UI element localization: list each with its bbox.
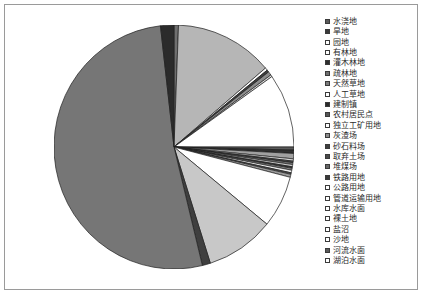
legend-swatch-icon (325, 154, 330, 159)
plot-area: 水浇地旱地园地有林地灌木林地疏林地天然草地人工草地建制镇农村居民点独立工矿用地灰… (5, 5, 419, 291)
legend-item: 水库水面 (325, 203, 417, 213)
chart-frame: 水浇地旱地园地有林地灌木林地疏林地天然草地人工草地建制镇农村居民点独立工矿用地灰… (4, 4, 418, 290)
chart-legend: 水浇地旱地园地有林地灌木林地疏林地天然草地人工草地建制镇农村居民点独立工矿用地灰… (325, 16, 417, 266)
legend-swatch-icon (325, 164, 330, 169)
legend-label: 水浇地 (333, 17, 357, 26)
legend-label: 天然草地 (333, 79, 365, 88)
legend-swatch-icon (325, 19, 330, 24)
legend-item: 沙地 (325, 235, 417, 245)
legend-item: 湖泊水面 (325, 255, 417, 265)
legend-swatch-icon (325, 196, 330, 201)
legend-item: 取弃土场 (325, 151, 417, 161)
legend-swatch-icon (325, 102, 330, 107)
legend-label: 取弃土场 (333, 152, 365, 161)
legend-label: 人工草地 (333, 90, 365, 99)
legend-label: 河流水面 (333, 246, 365, 255)
legend-item: 砂石料场 (325, 141, 417, 151)
legend-item: 公路用地 (325, 183, 417, 193)
legend-item: 盐沼 (325, 224, 417, 234)
legend-swatch-icon (325, 258, 330, 263)
legend-swatch-icon (325, 60, 330, 65)
legend-label: 公路用地 (333, 183, 365, 192)
legend-item: 疏林地 (325, 68, 417, 78)
legend-swatch-icon (325, 144, 330, 149)
legend-label: 裸土地 (333, 214, 357, 223)
legend-label: 有林地 (333, 48, 357, 57)
pie-svg (54, 25, 294, 269)
legend-item: 有林地 (325, 47, 417, 57)
legend-item: 旱地 (325, 26, 417, 36)
legend-swatch-icon (325, 185, 330, 190)
legend-item: 建制镇 (325, 99, 417, 109)
legend-label: 铁路用地 (333, 173, 365, 182)
legend-label: 建制镇 (333, 100, 357, 109)
legend-label: 独立工矿用地 (333, 121, 381, 130)
legend-swatch-icon (325, 216, 330, 221)
legend-item: 堆煤场 (325, 162, 417, 172)
legend-item: 灰渣场 (325, 130, 417, 140)
legend-label: 湖泊水面 (333, 256, 365, 265)
legend-item: 独立工矿用地 (325, 120, 417, 130)
legend-item: 天然草地 (325, 78, 417, 88)
legend-swatch-icon (325, 71, 330, 76)
legend-label: 沙地 (333, 235, 349, 244)
pie-slice-group (54, 25, 294, 269)
legend-item: 园地 (325, 37, 417, 47)
legend-swatch-icon (325, 123, 330, 128)
legend-item: 河流水面 (325, 245, 417, 255)
legend-label: 盐沼 (333, 225, 349, 234)
legend-swatch-icon (325, 112, 330, 117)
legend-swatch-icon (325, 175, 330, 180)
legend-swatch-icon (325, 50, 330, 55)
legend-swatch-icon (325, 206, 330, 211)
legend-label: 园地 (333, 38, 349, 47)
pie-chart (54, 25, 294, 269)
legend-label: 灰渣场 (333, 131, 357, 140)
legend-label: 旱地 (333, 27, 349, 36)
legend-item: 水浇地 (325, 16, 417, 26)
legend-label: 管道运输用地 (333, 194, 381, 203)
legend-label: 灌木林地 (333, 58, 365, 67)
legend-label: 水库水面 (333, 204, 365, 213)
legend-swatch-icon (325, 248, 330, 253)
legend-swatch-icon (325, 227, 330, 232)
legend-label: 堆煤场 (333, 162, 357, 171)
legend-swatch-icon (325, 92, 330, 97)
legend-swatch-icon (325, 237, 330, 242)
legend-item: 管道运输用地 (325, 193, 417, 203)
legend-item: 人工草地 (325, 89, 417, 99)
legend-item: 灌木林地 (325, 58, 417, 68)
legend-swatch-icon (325, 81, 330, 86)
legend-swatch-icon (325, 29, 330, 34)
legend-swatch-icon (325, 133, 330, 138)
legend-label: 砂石料场 (333, 142, 365, 151)
legend-label: 疏林地 (333, 69, 357, 78)
legend-item: 农村居民点 (325, 110, 417, 120)
legend-swatch-icon (325, 40, 330, 45)
legend-label: 农村居民点 (333, 110, 373, 119)
legend-item: 裸土地 (325, 214, 417, 224)
legend-item: 铁路用地 (325, 172, 417, 182)
